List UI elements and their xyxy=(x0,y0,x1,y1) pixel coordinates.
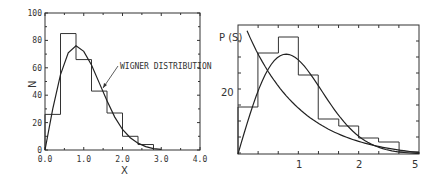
right-x-tick-3: 5 xyxy=(412,159,418,170)
annotation-label: WIGNER DISTRIBUTION xyxy=(120,62,212,71)
right-y-axis-label: P (S) xyxy=(219,32,242,43)
right-x-tick-1: 1 xyxy=(296,159,302,170)
left-histogram xyxy=(45,34,154,150)
right-ticks xyxy=(238,25,419,154)
left-y-ticks: 020406080100 xyxy=(28,9,200,155)
left-y-tick-label: 20 xyxy=(32,119,42,128)
right-plot-frame xyxy=(238,25,419,154)
left-y-tick-label: 80 xyxy=(32,36,42,45)
right-wigner-curve xyxy=(238,54,419,154)
left-y-tick-label: 60 xyxy=(32,64,42,73)
right-exponential-curve xyxy=(247,31,419,153)
left-x-tick-label: 2.0 xyxy=(115,155,130,164)
left-x-tick-label: 1.0 xyxy=(77,155,92,164)
left-y-tick-label: 40 xyxy=(32,91,42,100)
left-x-ticks: 0.01.02.03.04.0 xyxy=(38,13,208,164)
left-x-tick-label: 4.0 xyxy=(193,155,208,164)
right-histogram xyxy=(238,37,419,154)
left-chart: 020406080100 0.01.02.03.04.0 WIGNER DIST… xyxy=(27,9,212,176)
arrowhead-icon xyxy=(103,83,107,88)
left-x-tick-label: 3.0 xyxy=(154,155,169,164)
left-y-axis-label: N xyxy=(27,81,38,88)
right-y-tick-20: 20 xyxy=(221,87,234,98)
left-y-tick-label: 100 xyxy=(28,9,43,18)
right-chart: P (S) 20 1 2 5 xyxy=(219,25,419,170)
right-x-tick-2: 2 xyxy=(356,159,362,170)
figure: 020406080100 0.01.02.03.04.0 WIGNER DIST… xyxy=(0,0,436,181)
left-x-tick-label: 0.0 xyxy=(38,155,53,164)
left-y-tick-label: 0 xyxy=(37,146,42,155)
left-x-axis-label: X xyxy=(121,165,128,176)
